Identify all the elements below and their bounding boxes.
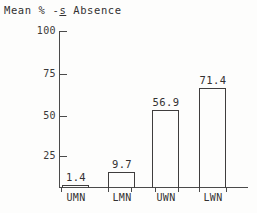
category-label-lwn: LWN: [193, 192, 233, 203]
y-tick-50: 50: [60, 116, 67, 117]
category-label-lmn: LMN: [102, 192, 142, 203]
bar-lmn: [108, 172, 135, 188]
y-tick-label-100: 100: [37, 25, 56, 36]
y-tick-25: 25: [60, 156, 67, 157]
bar-lwn: [199, 88, 226, 188]
plot-area: 100 75 50 25 1.4 UMN 9.7 LMN 56.9 UWN: [0, 0, 257, 213]
category-label-umn: UMN: [56, 192, 96, 203]
y-tick-100: 100: [60, 31, 67, 32]
y-tick-label-25: 25: [43, 150, 56, 161]
bar-value-uwn: 56.9: [146, 96, 186, 108]
bar-value-lmn: 9.7: [102, 158, 142, 170]
bar-uwn: [152, 110, 179, 188]
y-tick-label-75: 75: [43, 68, 56, 79]
category-label-uwn: UWN: [146, 192, 186, 203]
bar-umn: [62, 185, 89, 188]
bar-value-umn: 1.4: [56, 171, 96, 183]
bar-value-lwn: 71.4: [193, 74, 233, 86]
bar-chart-figure: Mean % -s Absence 100 75 50 25: [0, 0, 257, 213]
y-tick-75: 75: [60, 74, 67, 75]
y-tick-label-50: 50: [43, 110, 56, 121]
y-axis-line: [59, 31, 60, 188]
